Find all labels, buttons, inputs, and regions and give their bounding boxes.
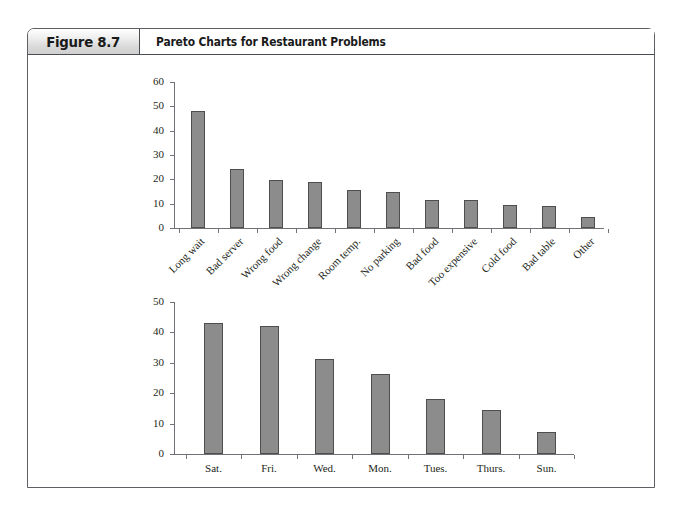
figure-container: Figure 8.7 Pareto Charts for Restaurant …	[27, 28, 655, 488]
y-axis-tick-label: 30	[140, 357, 164, 368]
x-axis-tick	[569, 229, 570, 233]
x-axis-line	[174, 228, 604, 229]
x-axis-tick	[179, 229, 180, 233]
y-axis-tick	[170, 179, 175, 180]
x-axis-category-label: Fri.	[239, 462, 299, 474]
x-axis-tick	[218, 229, 219, 233]
y-axis-tick-label: 0	[140, 448, 164, 459]
y-axis-tick	[170, 82, 175, 83]
bar	[482, 410, 501, 454]
x-axis-tick	[257, 229, 258, 233]
bar	[426, 399, 445, 454]
x-axis-tick	[352, 455, 353, 459]
y-axis-tick	[170, 454, 175, 455]
y-axis-line	[174, 302, 175, 455]
figure-number-label: Figure 8.7	[47, 34, 121, 50]
x-axis-tick	[452, 229, 453, 233]
x-axis-tick	[608, 229, 609, 233]
bar	[581, 217, 595, 228]
y-axis-tick-label: 30	[140, 149, 164, 160]
y-axis-tick	[170, 155, 175, 156]
bar	[503, 205, 517, 228]
y-axis-tick	[170, 363, 175, 364]
x-axis-tick	[463, 455, 464, 459]
x-axis-tick	[574, 455, 575, 459]
bar	[386, 192, 400, 228]
y-axis-tick-label: 10	[140, 198, 164, 209]
x-axis-line	[174, 454, 574, 455]
y-axis-tick	[170, 424, 175, 425]
x-axis-tick	[241, 455, 242, 459]
y-axis-tick	[170, 204, 175, 205]
y-axis-tick-label: 50	[140, 296, 164, 307]
y-axis-tick	[170, 106, 175, 107]
bar	[537, 432, 556, 454]
x-axis-category-label: Wed.	[295, 462, 355, 474]
x-axis-tick	[374, 229, 375, 233]
y-axis-tick-label: 20	[140, 173, 164, 184]
bar	[308, 182, 322, 228]
figure-number-cell: Figure 8.7	[28, 29, 140, 54]
bar	[191, 111, 205, 228]
chart-restaurant-problems: 0102030405060Long waitBad serverWrong fo…	[134, 74, 604, 319]
x-axis-tick	[491, 229, 492, 233]
x-axis-tick	[530, 229, 531, 233]
x-axis-category-label: Sun.	[517, 462, 577, 474]
figure-title-cell: Pareto Charts for Restaurant Problems	[140, 29, 654, 54]
x-axis-tick	[413, 229, 414, 233]
x-axis-tick	[335, 229, 336, 233]
x-axis-category-label: Sat.	[184, 462, 244, 474]
y-axis-tick	[170, 332, 175, 333]
y-axis-tick	[170, 393, 175, 394]
bar	[260, 326, 279, 454]
bar	[230, 169, 244, 228]
bar	[425, 200, 439, 228]
x-axis-tick	[408, 455, 409, 459]
x-axis-tick	[519, 455, 520, 459]
chart-problems-by-day: 01020304050Sat.Fri.Wed.Mon.Tues.Thurs.Su…	[134, 294, 604, 484]
bar	[315, 359, 334, 454]
y-axis-tick-label: 60	[140, 76, 164, 87]
y-axis-tick-label: 40	[140, 326, 164, 337]
y-axis-tick	[170, 228, 175, 229]
figure-title-label: Pareto Charts for Restaurant Problems	[156, 35, 386, 49]
figure-header: Figure 8.7 Pareto Charts for Restaurant …	[28, 29, 654, 55]
y-axis-tick-label: 20	[140, 387, 164, 398]
bar	[269, 180, 283, 228]
x-axis-category-label: Tues.	[406, 462, 466, 474]
y-axis-tick	[170, 131, 175, 132]
y-axis-tick-label: 40	[140, 125, 164, 136]
x-axis-category-label: Thurs.	[461, 462, 521, 474]
bar	[371, 374, 390, 454]
x-axis-tick	[297, 455, 298, 459]
bar	[542, 206, 556, 228]
y-axis-tick-label: 50	[140, 100, 164, 111]
x-axis-tick	[186, 455, 187, 459]
y-axis-tick-label: 10	[140, 418, 164, 429]
bar	[347, 190, 361, 228]
x-axis-category-label: Mon.	[350, 462, 410, 474]
x-axis-tick	[296, 229, 297, 233]
y-axis-tick-label: 0	[140, 222, 164, 233]
bar	[204, 323, 223, 454]
bar	[464, 200, 478, 228]
y-axis-tick	[170, 302, 175, 303]
